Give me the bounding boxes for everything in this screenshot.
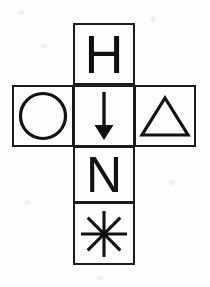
scan-speckle [168,180,176,185]
grid-cell-right [134,85,196,147]
symbol-grid-figure: H N [0,0,210,287]
letter-h-glyph: H [85,27,124,81]
grid-cell-left [12,85,74,147]
scan-speckle [150,16,156,22]
scan-speckle [96,276,105,280]
scan-speckle [40,44,49,48]
letter-n-glyph: N [86,150,122,200]
grid-cell-center [73,85,135,147]
asterisk-icon [75,205,133,263]
circle-icon [14,87,72,145]
down-arrow-icon [75,87,133,145]
triangle-icon [136,87,194,145]
grid-cell-top: H [73,23,135,85]
grid-cell-lower: N [73,146,135,203]
scan-speckle [24,200,31,205]
scan-speckle [18,10,25,15]
grid-cell-bottom [73,202,135,265]
